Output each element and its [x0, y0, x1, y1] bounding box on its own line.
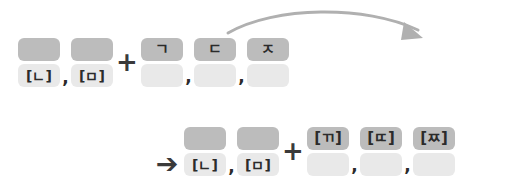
key-pair: [ㄴ] — [18, 38, 60, 87]
result-arrow-icon: ➔ — [150, 141, 184, 185]
separator-comma: , — [402, 157, 413, 176]
key-box-bottom — [141, 64, 183, 87]
separator-comma: , — [236, 68, 247, 87]
key-column: [ㄴ] — [18, 38, 60, 87]
key-box-bottom: [ㅁ] — [237, 153, 279, 176]
key-column: [ㅁ] — [237, 127, 279, 176]
separator-comma: , — [183, 68, 194, 87]
key-box-top: [ㄸ] — [360, 127, 402, 150]
key-box-top: [ㄲ] — [307, 127, 349, 150]
key-box-top: [ㅉ] — [413, 127, 455, 150]
key-column: ㅈ — [247, 38, 289, 87]
key-pair: [ㅉ] — [413, 127, 455, 176]
key-pair: ㄷ — [194, 38, 236, 87]
key-box-bottom: [ㄴ] — [184, 153, 226, 176]
key-pair: [ㄴ] — [184, 127, 226, 176]
key-column: [ㄴ] — [184, 127, 226, 176]
key-box-bottom — [360, 153, 402, 176]
key-column: ㄷ — [194, 38, 236, 87]
nasal-group: [ㄴ] , [ㅁ] — [18, 38, 113, 87]
plus-operator-icon: + — [113, 40, 141, 84]
key-box-bottom — [307, 153, 349, 176]
key-box-bottom — [247, 64, 289, 87]
key-pair: ㅈ — [247, 38, 289, 87]
input-row: [ㄴ] , [ㅁ] + ㄱ , ㄷ — [18, 38, 289, 87]
nasal-group-result: [ㄴ] , [ㅁ] — [184, 127, 279, 176]
key-box-top: ㅈ — [247, 38, 289, 61]
hangul-consonant-diagram: [ㄴ] , [ㅁ] + ㄱ , ㄷ — [0, 0, 509, 195]
separator-comma: , — [226, 158, 237, 176]
key-box-top — [71, 38, 113, 61]
key-column: [ㅁ] — [71, 38, 113, 87]
plus-operator-icon: + — [279, 129, 307, 173]
key-pair: [ㅁ] — [237, 127, 279, 176]
key-box-bottom: [ㄴ] — [18, 64, 60, 87]
key-column: [ㅉ] — [413, 127, 455, 176]
separator-comma: , — [60, 69, 71, 87]
key-pair: [ㄸ] — [360, 127, 402, 176]
output-row: ➔ [ㄴ] , [ㅁ] + [ㄲ] — [150, 127, 455, 185]
key-column: [ㄸ] — [360, 127, 402, 176]
key-box-top — [18, 38, 60, 61]
key-column: ㄱ — [141, 38, 183, 87]
key-box-bottom: [ㅁ] — [71, 64, 113, 87]
key-column: [ㄲ] — [307, 127, 349, 176]
plain-stop-group: ㄱ , ㄷ , ㅈ — [141, 38, 289, 87]
tense-stop-group: [ㄲ] , [ㄸ] , [ㅉ] — [307, 127, 455, 176]
separator-comma: , — [349, 157, 360, 176]
key-box-top — [184, 127, 226, 150]
key-pair: [ㄲ] — [307, 127, 349, 176]
key-box-bottom — [413, 153, 455, 176]
key-box-bottom — [194, 64, 236, 87]
key-box-top: ㄷ — [194, 38, 236, 61]
key-box-top — [237, 127, 279, 150]
key-pair: [ㅁ] — [71, 38, 113, 87]
key-pair: ㄱ — [141, 38, 183, 87]
key-box-top: ㄱ — [141, 38, 183, 61]
